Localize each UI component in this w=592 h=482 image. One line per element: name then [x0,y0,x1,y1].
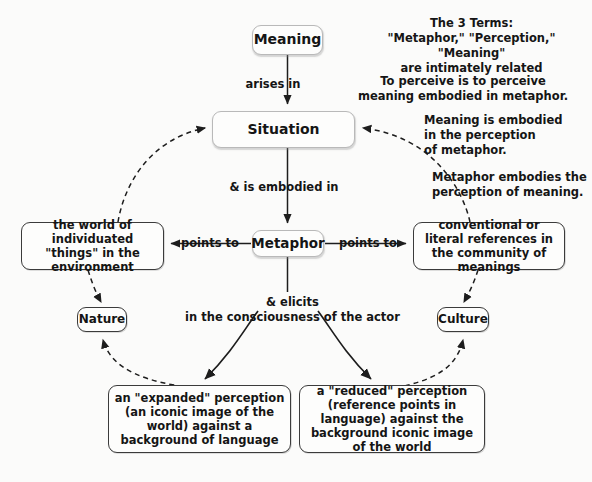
concept-map-canvas: Meaning Situation Metaphor Nature Cultur… [0,0,592,482]
node-metaphor-label: Metaphor [247,235,328,251]
node-conventional-references-label: conventional or literal references in th… [414,218,564,274]
edge-label-elicits: & elicits in the consciousness of the ac… [160,295,425,325]
node-nature-label: Nature [75,312,129,327]
node-culture[interactable]: Culture [437,307,489,332]
annotation-to-perceive: To perceive is to perceive meaning embod… [348,74,578,104]
edge-conventional-culture-dashed [464,270,478,302]
node-meaning-label: Meaning [250,31,326,48]
annotation-metaphor-embodies: Metaphor embodies the perception of mean… [432,170,588,200]
edge-expanded-nature-dashed [103,340,192,388]
edge-label-is-embodied-in: & is embodied in [213,180,355,195]
edge-reduced-culture-dashed [396,340,463,388]
node-conventional-references[interactable]: conventional or literal references in th… [413,222,565,270]
edge-label-arises-in: arises in [233,77,313,92]
node-world-of-things-label: the world of individuated "things" in th… [22,218,163,274]
node-situation[interactable]: Situation [212,111,355,148]
annotation-three-terms: The 3 Terms: "Metaphor," "Perception," "… [355,16,588,76]
node-meaning[interactable]: Meaning [252,25,323,55]
node-reduced-perception[interactable]: a "reduced" perception (reference points… [299,385,485,453]
edge-label-points-to-right: points to [328,236,408,251]
node-situation-label: Situation [243,121,323,138]
annotation-meaning-embodied: Meaning is embodied in the perception of… [424,113,588,158]
node-culture-label: Culture [434,312,492,327]
node-nature[interactable]: Nature [77,307,127,332]
edge-world-situation-dashed [118,128,205,222]
edge-label-points-to-left: points to [172,236,248,251]
edge-world-nature-dashed [88,270,101,302]
node-expanded-perception-label: an "expanded" perception (an iconic imag… [109,391,290,447]
node-world-of-things[interactable]: the world of individuated "things" in th… [21,222,164,270]
node-expanded-perception[interactable]: an "expanded" perception (an iconic imag… [108,385,291,453]
node-metaphor[interactable]: Metaphor [252,230,324,257]
node-reduced-perception-label: a "reduced" perception (reference points… [300,384,484,454]
